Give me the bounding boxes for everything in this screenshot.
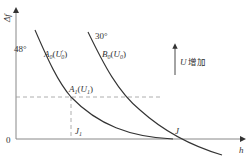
curve-b-angle-label: 30° [95, 31, 108, 41]
curve-a-label: A0(U′0) [43, 49, 67, 60]
curve-b [88, 32, 222, 155]
x-axis-label: h [239, 145, 244, 155]
origin-label: 0 [6, 135, 11, 145]
point-a1-label: A1(U1) [68, 84, 93, 95]
point-j1-label: J1 [75, 126, 82, 137]
diagram-canvas: Δf 0 h 48° A0(U′0) 30° B0(U0) A1(U1) J1 … [0, 0, 250, 165]
point-j-label: J [175, 126, 180, 136]
curve-a [35, 30, 173, 139]
direction-annotation: U增加 [180, 57, 206, 67]
y-axis-label: Δf [2, 13, 12, 23]
curve-b-label: B0(U0) [102, 49, 126, 60]
curve-a-angle-label: 48° [14, 44, 27, 54]
